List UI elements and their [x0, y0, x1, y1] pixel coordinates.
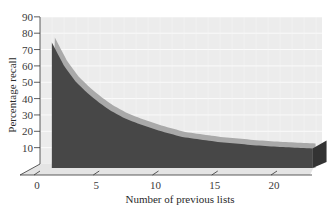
x-tick-label: 0 [34, 179, 40, 191]
y-tick-label: 50 [22, 76, 34, 88]
x-axis-title: Number of previous lists [125, 193, 234, 205]
y-tick-label: 80 [22, 27, 34, 39]
y-tick-label: 10 [22, 142, 34, 154]
y-tick-label: 40 [22, 93, 34, 105]
y-axis-title: Percentage recall [6, 57, 18, 132]
y-tick-label: 20 [22, 125, 34, 137]
x-tick-label: 15 [209, 179, 221, 191]
x-tick-label: 20 [269, 179, 281, 191]
y-tick-label: 70 [22, 44, 34, 56]
x-tick-label: 10 [150, 179, 162, 191]
y-axis-ticks: 102030405060708090 [22, 11, 40, 154]
recall-chart: 102030405060708090 05101520 Number of pr… [0, 0, 332, 212]
y-tick-label: 60 [22, 60, 34, 72]
y-tick-label: 90 [22, 11, 34, 23]
x-tick-label: 5 [94, 179, 100, 191]
y-tick-label: 30 [22, 109, 34, 121]
